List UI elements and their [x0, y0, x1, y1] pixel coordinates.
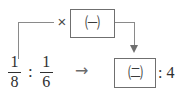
circled-letter-nieun: ㈡	[128, 66, 143, 81]
result-answer-box: ㈡	[114, 58, 156, 88]
ratio-expression: 1 8 : 1 6	[8, 54, 53, 90]
result-ratio-tail: : 4	[158, 63, 174, 83]
left-top-connector-line	[18, 22, 54, 23]
down-arrowhead-icon	[130, 45, 138, 53]
circled-letter-giyeok: ㈠	[85, 16, 100, 31]
multiplication-sign: ×	[54, 13, 70, 30]
fraction-numerator: 1	[40, 54, 52, 70]
ratio-separator: :	[21, 62, 40, 82]
right-top-connector-line	[113, 22, 135, 23]
fraction-denominator: 6	[40, 74, 52, 90]
fraction-one-sixth: 1 6	[40, 54, 53, 90]
fraction-denominator: 8	[9, 74, 21, 90]
implies-arrow-icon: →	[75, 63, 88, 79]
right-drop-line	[134, 22, 135, 47]
fraction-numerator: 1	[9, 54, 21, 70]
fraction-one-eighth: 1 8	[8, 54, 21, 90]
math-ratio-diagram: × ㈠ 1 8 : 1 6 → ㈡ : 4	[0, 0, 178, 95]
top-answer-box: ㈠	[70, 9, 115, 38]
